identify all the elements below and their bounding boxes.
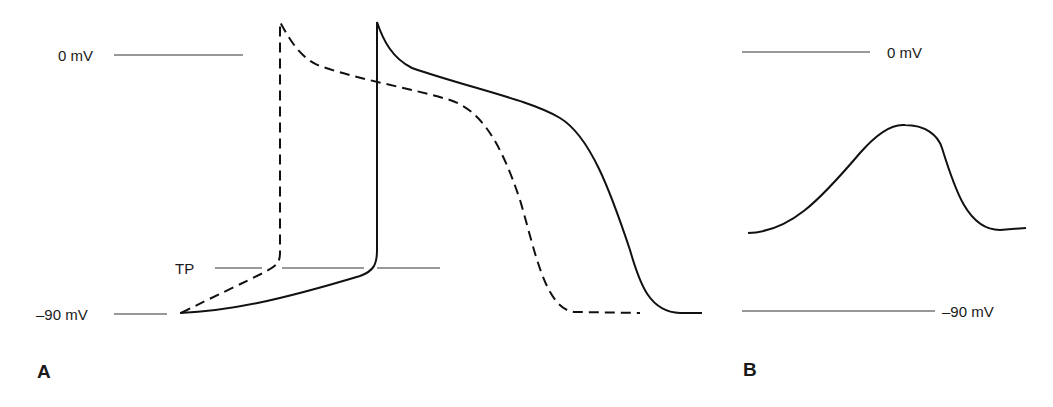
panel-a-label: A bbox=[37, 362, 51, 381]
action-potential-solid bbox=[180, 22, 702, 313]
tp-label: TP bbox=[175, 261, 194, 276]
zero-mv-label-b: 0 mV bbox=[887, 45, 922, 60]
action-potential-dashed bbox=[181, 22, 640, 313]
zero-mv-label-a: 0 mV bbox=[58, 48, 93, 63]
minus90-label-a: –90 mV bbox=[36, 307, 88, 322]
panel-b-label: B bbox=[743, 360, 757, 379]
minus90-label-b: –90 mV bbox=[942, 304, 994, 319]
slow-action-potential bbox=[748, 125, 1026, 233]
figure-canvas bbox=[0, 0, 1053, 407]
